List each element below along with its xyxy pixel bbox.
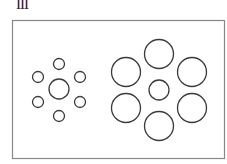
right-center-circle [149,80,169,100]
right-circle-group [112,40,207,141]
right-surround-circle [178,58,207,87]
left-surround-circle [33,97,44,108]
left-surround-circle [54,59,65,70]
left-center-circle [49,79,69,99]
left-surround-circle [54,111,65,122]
diagram-frame [13,21,225,159]
right-surround-circle [112,58,141,87]
left-surround-circle [75,72,86,83]
left-surround-circle [33,72,44,83]
left-surround-circle [75,97,86,108]
ebbinghaus-diagram [0,0,227,164]
right-surround-circle [145,112,174,141]
right-surround-circle [145,40,174,69]
left-circle-group [33,59,86,122]
right-surround-circle [178,94,207,123]
right-surround-circle [112,94,141,123]
